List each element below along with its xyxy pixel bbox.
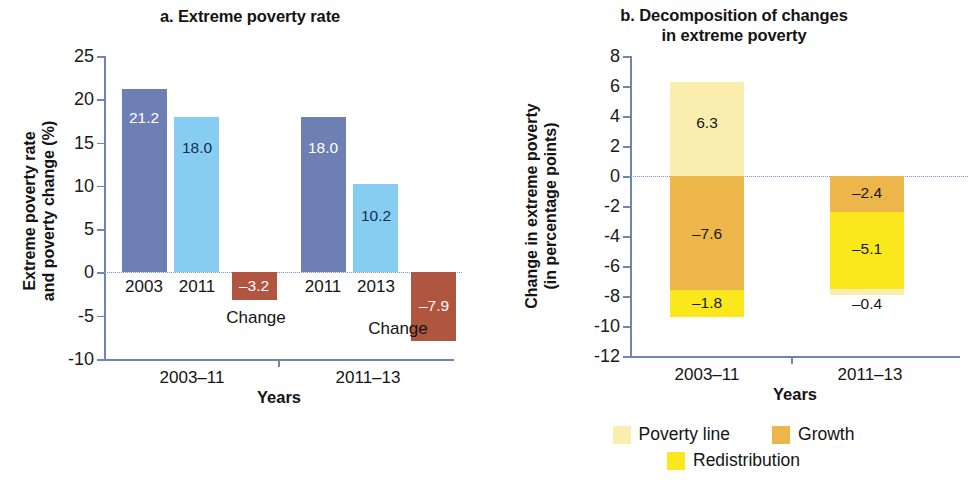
bar-category-2003: 2003 <box>125 277 163 297</box>
y-tick-4 <box>623 116 630 118</box>
legend-label-poverty-line: Poverty line <box>639 424 730 445</box>
legend-swatch-growth-icon <box>772 426 790 444</box>
y-tick-minus10 <box>623 326 630 328</box>
bar-label-change-2011-13: –7.9 <box>419 297 449 315</box>
stack-label-growth-2003-11: –7.6 <box>692 225 722 243</box>
y-tick-label-20: 20 <box>74 89 94 110</box>
y-tick-minus2 <box>623 206 630 208</box>
legend-item-growth: Growth <box>772 424 854 445</box>
chart-panel-b: b. Decomposition of changes in extreme p… <box>489 0 978 483</box>
panel-b-group-label-1: 2003–11 <box>675 365 740 385</box>
panel-a-group-label-1: 2003–11 <box>160 368 225 388</box>
y-tick-minus5 <box>97 316 104 318</box>
legend-item-poverty-line: Poverty line <box>613 424 730 445</box>
legend-item-redistribution: Redistribution <box>667 450 800 471</box>
panel-a-zero-line <box>104 272 462 273</box>
panel-a-x-tick-mid <box>278 359 280 367</box>
stack-poverty-line-2011-13 <box>830 289 904 295</box>
y-tick-8 <box>623 56 630 58</box>
y-tick-label-15: 15 <box>74 132 94 153</box>
stack-label-poverty-line-2003-11: 6.3 <box>696 114 718 132</box>
y-tick-10 <box>97 186 104 188</box>
y-tick-label-zero: 0 <box>610 166 620 187</box>
legend-row-2: Redistribution <box>489 450 978 471</box>
bar-label-2003-rate: 21.2 <box>129 109 159 127</box>
legend-swatch-poverty-line-icon <box>613 426 631 444</box>
panel-a-plot-area: 25 20 15 10 5 0 -5 -10 21.2 18.0 –3.2 18… <box>104 56 454 359</box>
y-tick-label-0: 0 <box>84 262 94 283</box>
y-tick-zero <box>623 176 630 178</box>
y-tick-label-10: 10 <box>74 175 94 196</box>
chart-panel-a: a. Extreme poverty rate Extreme poverty … <box>0 0 489 483</box>
legend-row-1: Poverty line Growth <box>489 424 978 445</box>
panel-b-y-axis-label: Change in extreme poverty (in percentage… <box>522 56 564 356</box>
bar-category-2011-b: 2011 <box>305 277 342 297</box>
y-tick-label-minus8: -8 <box>604 286 620 307</box>
panel-a-group-label-2: 2011–13 <box>336 368 401 388</box>
panel-b-x-axis-label: Years <box>630 385 960 404</box>
y-tick-20 <box>97 99 104 101</box>
panel-b-x-axis <box>630 356 960 358</box>
y-tick-label-5: 5 <box>84 219 94 240</box>
y-tick-label-6: 6 <box>610 76 620 97</box>
panel-a-x-axis-label: Years <box>104 388 454 407</box>
y-tick-minus8 <box>623 296 630 298</box>
bar-label-change-2003-11: –3.2 <box>239 277 269 295</box>
panel-b-x-tick-mid <box>791 356 793 364</box>
panel-b-title: b. Decomposition of changes in extreme p… <box>499 5 969 45</box>
y-tick-label-minus10: -10 <box>68 349 94 370</box>
y-tick-5 <box>97 229 104 231</box>
bar-2013-rate <box>353 184 398 272</box>
y-tick-minus10 <box>97 359 104 361</box>
y-tick-0 <box>97 272 104 274</box>
stack-label-redistribution-2011-13: –5.1 <box>852 240 882 258</box>
y-tick-label-25: 25 <box>74 46 94 67</box>
y-tick-minus4 <box>623 236 630 238</box>
y-tick-minus6 <box>623 266 630 268</box>
y-tick-label-minus12: -12 <box>594 346 620 367</box>
y-tick-label-minus5: -5 <box>78 305 94 326</box>
panel-b-y-axis <box>630 56 632 356</box>
panel-a-y-axis <box>104 56 106 359</box>
bar-label-2011-rate: 18.0 <box>182 139 212 157</box>
legend-label-redistribution: Redistribution <box>693 450 800 471</box>
panel-a-y-axis-label: Extreme poverty rate and poverty change … <box>20 66 62 356</box>
bar-category-2013: 2013 <box>357 277 395 297</box>
y-tick-2 <box>623 146 630 148</box>
y-tick-label-minus10: -10 <box>594 316 620 337</box>
panel-b-group-label-2: 2011–13 <box>838 365 903 385</box>
panel-b-plot-area: 8 6 4 2 0 -2 -4 -6 -8 -10 -12 6.3 –7.6 –… <box>630 56 960 356</box>
stack-label-growth-2011-13: –2.4 <box>852 184 882 202</box>
y-tick-label-minus2: -2 <box>604 196 620 217</box>
bar-label-2013-rate: 10.2 <box>361 207 391 225</box>
y-tick-label-8: 8 <box>610 46 620 67</box>
panel-a-title: a. Extreme poverty rate <box>20 6 480 26</box>
bar-label-2011-rate-2: 18.0 <box>308 139 338 157</box>
y-tick-label-4: 4 <box>610 106 620 127</box>
y-tick-6 <box>623 86 630 88</box>
bar-category-change-1: Change <box>226 308 286 328</box>
y-tick-label-2: 2 <box>610 136 620 157</box>
legend-label-growth: Growth <box>798 424 854 445</box>
y-tick-label-minus4: -4 <box>604 226 620 247</box>
y-tick-15 <box>97 143 104 145</box>
bar-category-change-2: Change <box>368 319 428 339</box>
y-tick-25 <box>97 56 104 58</box>
legend: Poverty line Growth Redistribution <box>489 424 978 476</box>
stack-label-poverty-line-2011-13: –0.4 <box>852 295 882 313</box>
legend-swatch-redistribution-icon <box>667 452 685 470</box>
y-tick-label-minus6: -6 <box>604 256 620 277</box>
y-tick-minus12 <box>623 356 630 358</box>
stack-label-redistribution-2003-11: –1.8 <box>692 294 722 312</box>
bar-category-2011: 2011 <box>179 277 216 297</box>
